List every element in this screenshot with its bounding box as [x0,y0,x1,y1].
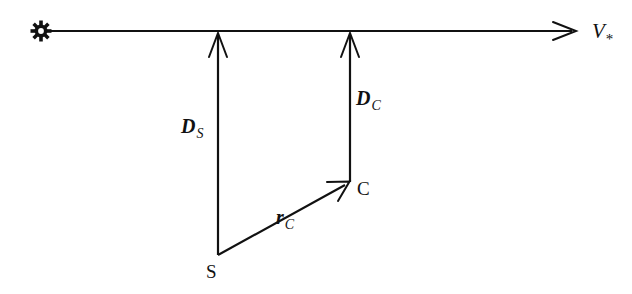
axis-label-main: V [592,19,607,43]
distance-lens-label: DC [355,87,381,113]
sun-star-icon [31,21,52,42]
lensing-diagram-svg: V* DS DC rC S C [0,0,632,294]
impact-parameter-vector-arrowhead [327,182,350,202]
lensing-diagram-canvas: V* DS DC rC S C [0,0,632,294]
point-label-c: C [357,178,370,199]
distance-source-vector-group [209,33,227,255]
axis-label: V* [592,19,613,47]
point-label-s: S [206,261,217,282]
axis-label-subscript: * [606,31,614,47]
distance-source-label-subscript: S [196,126,203,141]
impact-parameter-label: rC [276,206,295,232]
impact-parameter-label-subscript: C [285,217,295,232]
distance-source-label-main: D [180,115,195,137]
optical-axis-group [41,22,576,40]
distance-lens-label-subscript: C [371,98,381,113]
distance-source-label: DS [180,115,203,141]
distance-lens-label-main: D [355,87,370,109]
impact-parameter-label-main: r [276,206,284,228]
